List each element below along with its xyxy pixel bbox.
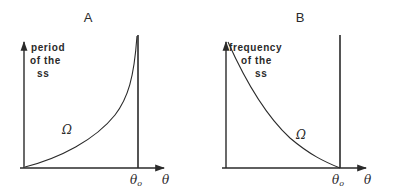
panel-b: B frequency of the ss Ω θo θ [222, 10, 372, 188]
panel-b-title: B [296, 10, 305, 25]
panel-a-title: A [84, 10, 93, 25]
panel-a: A period of the ss Ω θo θ [20, 10, 170, 188]
y-axis-label-line-3: ss [37, 68, 49, 79]
theta-o-label: θo [332, 173, 344, 188]
y-axis-label-line-3: ss [255, 68, 267, 79]
diagram-canvas: A period of the ss Ω θo θ B frequency of… [0, 0, 394, 196]
curve-label-omega: Ω [295, 128, 306, 142]
y-axis-label-line-2: of the [30, 55, 61, 66]
x-axis-label-theta: θ [364, 173, 372, 187]
curve-label-omega: Ω [61, 123, 72, 137]
y-axis-label-line-2: of the [241, 55, 272, 66]
theta-o-label: θo [130, 173, 142, 188]
y-axis-label-line-1: period [31, 42, 65, 53]
y-axis-label-line-1: frequency [229, 42, 282, 53]
x-axis-label-theta: θ [162, 173, 170, 187]
